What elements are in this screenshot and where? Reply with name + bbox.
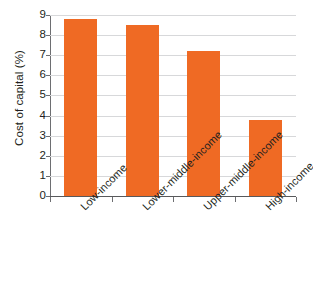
gridline <box>50 15 296 16</box>
y-axis-tick <box>46 136 50 137</box>
y-axis-tick <box>46 75 50 76</box>
x-axis-tick <box>112 197 113 202</box>
y-axis-tick-label: 5 <box>16 90 46 102</box>
x-axis-tick <box>235 197 236 202</box>
y-axis-tick-label: 9 <box>16 9 46 21</box>
y-axis-tick-label: 1 <box>16 170 46 182</box>
y-axis-tick-label: 0 <box>16 190 46 202</box>
plot-area <box>50 15 296 196</box>
y-axis-tick <box>46 156 50 157</box>
y-axis-tick-labels: 0123456789 <box>18 15 46 196</box>
y-axis-tick <box>46 55 50 56</box>
bar[interactable] <box>126 25 159 196</box>
y-axis-tick <box>46 176 50 177</box>
y-axis-tick-label: 7 <box>16 49 46 61</box>
x-axis-tick <box>50 197 51 202</box>
y-axis-tick-label: 2 <box>16 150 46 162</box>
y-axis-tick-label: 8 <box>16 29 46 41</box>
y-axis-tick-label: 3 <box>16 130 46 142</box>
x-axis-tick <box>296 197 297 202</box>
bar[interactable] <box>187 51 220 196</box>
y-axis-tick-label: 6 <box>16 70 46 82</box>
y-axis-tick-label: 4 <box>16 110 46 122</box>
y-axis-tick <box>46 15 50 16</box>
y-axis-tick <box>46 95 50 96</box>
bar[interactable] <box>64 19 97 196</box>
y-axis-tick <box>46 116 50 117</box>
bar-chart-figure: Cost of capital (%) 0123456789 Low-incom… <box>0 0 313 292</box>
x-axis-tick <box>173 197 174 202</box>
y-axis-tick <box>46 35 50 36</box>
